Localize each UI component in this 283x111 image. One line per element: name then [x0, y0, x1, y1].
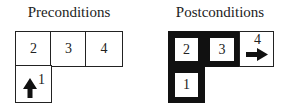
preconditions-title: Preconditions [15, 4, 123, 21]
cell-label: 2 [183, 42, 190, 58]
post-cell-2: 2 [175, 38, 198, 61]
post-cell-3: 3 [210, 38, 234, 61]
pre-cell-1: 1 [15, 65, 52, 103]
post-cell-4: 4 [239, 31, 274, 67]
postconditions-title: Postconditions [160, 4, 280, 21]
right-arrow-icon [246, 48, 268, 61]
cell-label: 3 [65, 41, 72, 57]
cell-label: 3 [219, 42, 226, 58]
cell-label: 2 [30, 41, 37, 57]
pre-cell-4: 4 [85, 31, 123, 67]
cell-label: 1 [183, 77, 190, 93]
pre-cell-2: 2 [15, 31, 52, 67]
pre-cell-3: 3 [50, 31, 87, 67]
cell-label: 4 [254, 32, 261, 48]
cell-label: 1 [38, 72, 45, 88]
cell-label: 4 [101, 41, 108, 57]
up-arrow-icon [23, 78, 37, 98]
post-cell-1: 1 [175, 73, 198, 97]
